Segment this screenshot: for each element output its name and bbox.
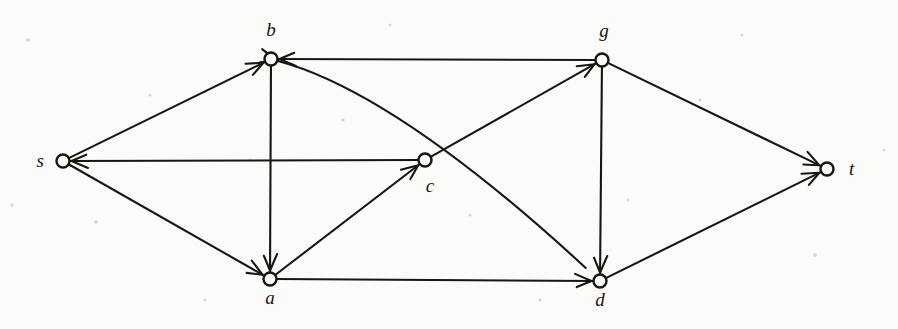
paper-speck [389, 24, 392, 27]
paper-speck [469, 214, 472, 217]
edge-g-d [594, 67, 607, 275]
node-label-s: s [37, 150, 44, 171]
graph-node-g[interactable] [596, 54, 609, 67]
node-label-c: c [426, 175, 435, 196]
graph-figure: sbcagdt [0, 0, 898, 329]
paper-speck [26, 38, 30, 42]
paper-speck [882, 148, 885, 151]
node-label-g: g [599, 20, 609, 41]
arrowhead-d-t [801, 173, 819, 185]
edge-c-s [70, 155, 419, 168]
paper-speck [538, 298, 541, 301]
node-label-layer: sbcagdt [37, 19, 855, 310]
graph-node-a[interactable] [264, 273, 277, 286]
paper-speck [740, 33, 743, 36]
graph-canvas: sbcagdt [0, 0, 898, 329]
paper-speck [341, 118, 344, 121]
paper-specks [10, 24, 885, 302]
graph-node-s[interactable] [57, 155, 70, 168]
edge-a-c [275, 164, 420, 275]
paper-speck [698, 98, 702, 102]
graph-node-c[interactable] [419, 154, 432, 167]
edge-g-t [608, 63, 821, 166]
paper-speck [204, 299, 207, 302]
graph-node-t[interactable] [821, 163, 834, 176]
node-label-b: b [266, 19, 276, 40]
edge-g-b [278, 53, 596, 66]
paper-speck [94, 220, 98, 224]
arrowhead-s-b [245, 63, 263, 75]
arrowhead-c-g [577, 64, 595, 77]
node-label-t: t [849, 158, 855, 179]
paper-speck [627, 199, 630, 202]
graph-node-b[interactable] [265, 53, 278, 66]
edge-b-a [264, 66, 277, 273]
node-label-d: d [595, 289, 605, 310]
edge-s-b [69, 62, 265, 158]
edge-layer [69, 49, 822, 287]
edge-d-t [606, 172, 821, 278]
paper-speck [813, 253, 817, 257]
edge-s-a [69, 164, 265, 276]
node-label-a: a [265, 287, 275, 308]
edge-a-d [277, 274, 594, 287]
node-layer [57, 53, 834, 288]
paper-speck [148, 93, 151, 96]
edge-c-g [431, 63, 597, 157]
paper-speck [10, 203, 14, 207]
graph-node-d[interactable] [594, 275, 607, 288]
